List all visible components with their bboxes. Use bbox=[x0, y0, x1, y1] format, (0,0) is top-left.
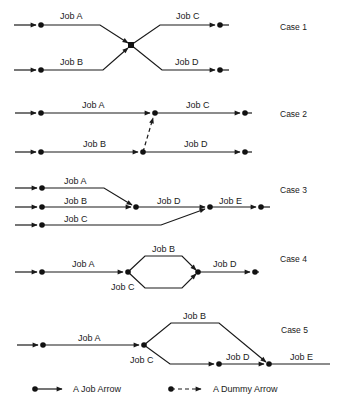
network-diagram: Job A Job B Job C Job D Case 1 Job A Job… bbox=[0, 0, 343, 405]
case-4: Job A Job B Job C Job D Case 4 bbox=[15, 244, 307, 292]
job-label: Job D bbox=[157, 196, 181, 206]
dummy-arrow bbox=[143, 118, 153, 152]
case-label: Case 2 bbox=[280, 109, 307, 119]
job-label: Job C bbox=[130, 355, 154, 365]
job-d-arrow bbox=[131, 45, 215, 70]
job-c-arrow bbox=[128, 272, 196, 288]
case-label: Case 3 bbox=[280, 185, 307, 195]
case-1: Job A Job B Job C Job D Case 1 bbox=[14, 11, 307, 73]
job-label: Job C bbox=[64, 214, 88, 224]
job-label: Job A bbox=[60, 11, 83, 21]
job-label: Job D bbox=[175, 57, 199, 67]
event-node bbox=[128, 42, 134, 48]
job-label: Job E bbox=[290, 352, 313, 362]
case-3: Job A Job B Job C Job D Job E Case 3 bbox=[15, 176, 307, 228]
job-b-arrow bbox=[128, 256, 196, 272]
job-label: Job D bbox=[184, 139, 208, 149]
job-label: Job D bbox=[213, 259, 237, 269]
job-label: Job A bbox=[72, 259, 95, 269]
case-label: Case 4 bbox=[280, 254, 307, 264]
job-label: Job A bbox=[64, 176, 87, 186]
job-label: Job A bbox=[78, 333, 101, 343]
event-node bbox=[217, 22, 223, 28]
job-label: Job B bbox=[64, 196, 87, 206]
legend-job-arrow-label: A Job Arrow bbox=[73, 384, 122, 394]
job-label: Job E bbox=[219, 196, 242, 206]
job-label: Job C bbox=[111, 282, 135, 292]
event-node bbox=[38, 67, 44, 73]
job-c-arrow bbox=[131, 25, 215, 45]
job-a-arrow bbox=[41, 25, 128, 43]
job-label: Job B bbox=[183, 311, 206, 321]
legend: A Job Arrow A Dummy Arrow bbox=[32, 384, 278, 394]
job-b-arrow bbox=[41, 48, 128, 70]
job-c-arrow bbox=[144, 345, 214, 364]
case-label: Case 1 bbox=[280, 22, 307, 32]
job-label: Job D bbox=[226, 352, 250, 362]
job-label: Job A bbox=[82, 100, 105, 110]
event-node bbox=[38, 22, 44, 28]
event-node bbox=[217, 67, 223, 73]
job-label: Job C bbox=[176, 11, 200, 21]
case-5: Job A Job B Job C Job D Job E Case 5 bbox=[17, 311, 330, 367]
legend-dummy-arrow-label: A Dummy Arrow bbox=[213, 384, 278, 394]
case-2: Job A Job B Job C Job D Case 2 bbox=[15, 100, 307, 155]
case-label: Case 5 bbox=[281, 325, 308, 335]
job-label: Job C bbox=[186, 100, 210, 110]
job-label: Job B bbox=[60, 57, 83, 67]
job-label: Job B bbox=[83, 139, 106, 149]
job-label: Job B bbox=[152, 244, 175, 254]
